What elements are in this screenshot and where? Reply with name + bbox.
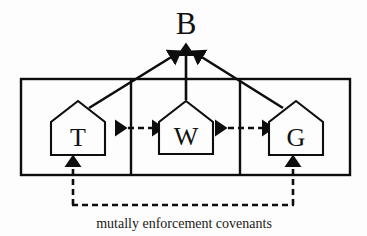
house-g-label: G — [287, 123, 306, 152]
house-t-label: T — [70, 123, 86, 152]
bank-node-label: B — [176, 6, 197, 41]
diagram-svg: T W G B mutally enforcement covenants — [0, 0, 367, 236]
house-w-label: W — [174, 122, 199, 151]
diagram-canvas: T W G B mutally enforcement covenants — [0, 0, 367, 236]
house-w[interactable]: W — [159, 101, 213, 154]
house-t[interactable]: T — [51, 101, 105, 155]
arrow-g-to-b — [200, 56, 283, 108]
covenant-caption: mutally enforcement covenants — [96, 216, 272, 231]
house-g[interactable]: G — [269, 101, 323, 155]
